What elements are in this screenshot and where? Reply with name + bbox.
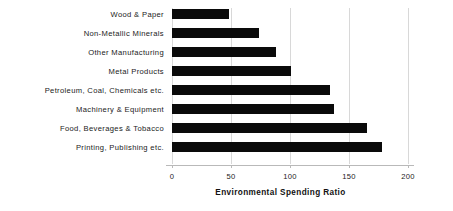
x-axis-tick-label: 50 xyxy=(216,172,246,182)
plot-area xyxy=(172,8,408,164)
gridline xyxy=(408,8,409,164)
gridline xyxy=(349,8,350,164)
category-label: Metal Products xyxy=(0,67,164,77)
x-axis-tick-label: 200 xyxy=(393,172,423,182)
x-axis-tick xyxy=(408,165,409,168)
x-axis-tick xyxy=(172,165,173,168)
bar xyxy=(172,66,291,76)
bar xyxy=(172,104,334,114)
x-axis-tick xyxy=(231,165,232,168)
bar xyxy=(172,85,330,95)
x-axis-title-text: Environmental Spending Ratio xyxy=(215,188,345,197)
x-axis-tick-label: 0 xyxy=(157,172,187,182)
category-label: Machinery & Equipment xyxy=(0,105,164,115)
category-label: Wood & Paper xyxy=(0,10,164,20)
bar-chart: Wood & Paper Non-Metallic Minerals Other… xyxy=(0,0,453,211)
x-axis-tick-label: 100 xyxy=(275,172,305,182)
category-label: Printing, Publishing etc. xyxy=(0,143,164,153)
bar xyxy=(172,9,229,19)
bar xyxy=(172,47,276,57)
bar xyxy=(172,123,367,133)
x-axis-tick xyxy=(349,165,350,168)
category-label: Other Manufacturing xyxy=(0,48,164,58)
category-label: Food, Beverages & Tobacco xyxy=(0,124,164,134)
x-axis-title: Environmental Spending Ratio xyxy=(0,188,453,197)
bar xyxy=(172,142,382,152)
category-axis-labels: Wood & Paper Non-Metallic Minerals Other… xyxy=(0,8,168,164)
x-axis-tick xyxy=(290,165,291,168)
category-label: Petroleum, Coal, Chemicals etc. xyxy=(0,86,164,96)
category-label: Non-Metallic Minerals xyxy=(0,29,164,39)
x-axis-tick-label: 150 xyxy=(334,172,364,182)
bar xyxy=(172,28,259,38)
